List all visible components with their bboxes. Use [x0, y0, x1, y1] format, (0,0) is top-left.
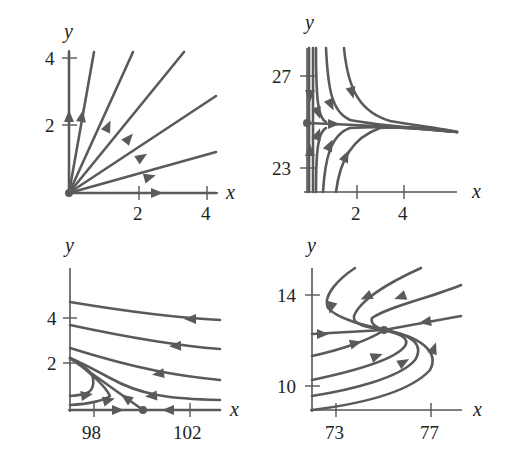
x-axis-label: x [225, 181, 235, 203]
x-tick-label: 77 [420, 422, 439, 443]
y-tick-label: 2 [45, 115, 55, 136]
y-axis-label: y [303, 11, 314, 34]
x-axis-label: x [472, 398, 482, 420]
y-tick-label: 10 [277, 376, 296, 397]
y-tick-label: 4 [47, 308, 57, 329]
y-axis-label: y [62, 20, 73, 43]
direction-arrows [64, 109, 163, 198]
y-tick-label: 2 [47, 353, 57, 374]
y-axis-label: y [305, 234, 316, 257]
equilibrium-point [139, 406, 147, 414]
phase-portraits: y x 2 4 2 4 [0, 0, 507, 459]
equilibrium-point [303, 119, 311, 127]
y-tick-label: 23 [272, 158, 291, 179]
x-tick-label: 98 [82, 422, 101, 443]
equilibrium-point [380, 326, 388, 334]
trajectories [312, 268, 461, 410]
trajectories [69, 52, 216, 193]
x-tick-label: 2 [351, 203, 361, 224]
y-tick-label: 27 [272, 66, 291, 87]
panel-4: y x 73 77 14 10 [277, 234, 482, 443]
panel-1: y x 2 4 2 4 [45, 20, 235, 224]
x-tick-label: 73 [325, 422, 344, 443]
x-axis-label: x [471, 180, 481, 202]
x-tick-label: 2 [133, 203, 143, 224]
panel-2: y x 2 4 27 23 [272, 11, 481, 224]
x-tick-label: 4 [398, 203, 408, 224]
panel-3: y x 98 102 4 2 [47, 234, 239, 443]
x-axis-label: x [229, 398, 239, 420]
x-tick-label: 102 [173, 422, 202, 443]
y-axis-label: y [63, 234, 74, 257]
equilibrium-point [65, 189, 73, 197]
trajectories [70, 302, 220, 410]
y-tick-label: 14 [277, 285, 297, 306]
x-tick-label: 4 [201, 203, 211, 224]
y-tick-label: 4 [45, 48, 55, 69]
